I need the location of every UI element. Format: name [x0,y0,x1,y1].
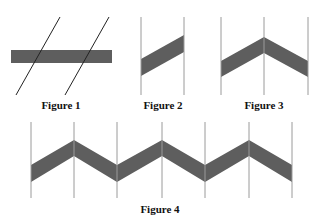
figure-1-graphic [11,17,112,95]
figure-1-caption: Figure 1 [41,99,80,111]
figure-2-caption: Figure 2 [143,99,182,111]
figure-4-caption: Figure 4 [140,203,179,215]
figure-3-graphic [221,17,308,95]
band-shape [141,35,184,76]
figure-3-caption: Figure 3 [244,99,283,111]
diagram-canvas [0,0,318,224]
figure-4-graphic [31,122,292,198]
horizontal-bar [11,50,112,63]
figure-2-graphic [141,17,184,95]
